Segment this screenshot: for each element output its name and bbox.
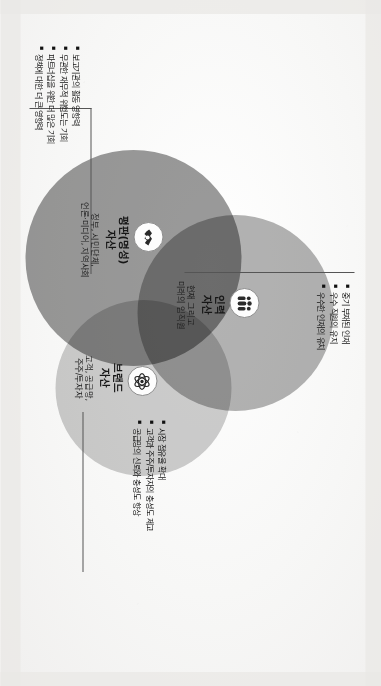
circle-title-reputation: 평판(명성) 자산	[103, 176, 129, 304]
circle-label-reputation: 평판(명성) 자산 정부, 시민단체, 언론·미디어, 지역사회	[79, 176, 129, 304]
circle-title-brand: 브랜드 자산	[97, 330, 123, 426]
bullet-list-reputation: 보고기관의 활동 영향력 무관한 재무적 위험도는 기회 파트너십을 위한 더 …	[32, 46, 81, 144]
circle-title-human: 인력 자산	[199, 250, 225, 360]
bullet-list-brand: 시장 점유율 확대 고객과 주주/투자자의 충성도 제고 공급망의 신뢰와 충성…	[130, 420, 167, 531]
bullet-item: 우수 직원의 유지	[326, 284, 338, 350]
handshake-icon	[133, 222, 163, 252]
circle-subtitle-human: 현재 그리고 미래의 임직원	[175, 250, 195, 360]
bullet-list-human: 중기 부재된 인재 우수 직원의 유지 우수한 인재의 유치	[314, 284, 351, 350]
bullet-item: 공급망의 신뢰와 충성도 향상	[130, 420, 142, 531]
bullet-item: 고객과 주주/투자자의 충성도 제고	[142, 420, 154, 531]
atom-icon	[127, 366, 157, 396]
bullet-item: 무관한 재무적 위험도는 기회	[56, 46, 68, 144]
figure-canvas: 평판(명성) 자산 정부, 시민단체, 언론·미디어, 지역사회 인력 자산 현…	[0, 0, 381, 686]
scan-edge-left	[0, 0, 381, 14]
people-group-icon	[229, 288, 259, 318]
bullet-item: 중기 부재된 인재	[339, 284, 351, 350]
circle-subtitle-brand: 고객, 공급망, 주주/투자자	[73, 330, 93, 426]
bullet-item: 정책에 대한 더 큰 영향력	[32, 46, 44, 144]
bullet-item: 파트너십을 위한 더 많은 기회	[44, 46, 56, 144]
bullet-item: 우수한 인재의 유치	[314, 284, 326, 350]
circle-label-human: 인력 자산 현재 그리고 미래의 임직원	[175, 250, 225, 360]
scan-edge-bottom	[0, 0, 20, 686]
circle-label-brand: 브랜드 자산 고객, 공급망, 주주/투자자	[73, 330, 123, 426]
leader-line-brand	[82, 412, 83, 572]
circle-subtitle-reputation: 정부, 시민단체, 언론·미디어, 지역사회	[79, 176, 99, 304]
scan-edge-top	[365, 0, 381, 686]
scan-edge-right	[0, 672, 381, 686]
bullet-item: 보고기관의 활동 영향력	[69, 46, 81, 144]
bullet-item: 시장 점유율 확대	[155, 420, 167, 531]
